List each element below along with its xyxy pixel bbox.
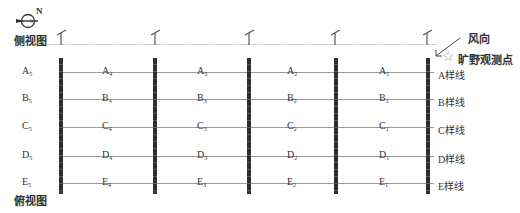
tree-icon <box>55 29 69 49</box>
transect-label-c: C样线 <box>438 122 465 137</box>
point-label: B4 <box>102 92 112 104</box>
point-label: E2 <box>287 176 296 188</box>
transect-label-d: D样线 <box>438 151 465 166</box>
point-label: A1 <box>379 65 389 77</box>
point-label: D2 <box>287 149 297 161</box>
point-label: A4 <box>102 65 112 77</box>
point-label: C3 <box>197 120 207 132</box>
shelterbelt-bar <box>59 58 63 194</box>
tree-icon <box>329 29 343 49</box>
tree-icon <box>149 29 163 49</box>
point-label: E4 <box>102 176 111 188</box>
shelterbelt-bar <box>247 58 251 194</box>
point-label: D4 <box>102 149 112 161</box>
point-label: C4 <box>102 120 112 132</box>
transect-label-b: B样线 <box>438 94 465 109</box>
side-view-horizon-line <box>48 44 436 45</box>
side-view-label: 侧视图 <box>14 32 47 48</box>
transect-label-e: E样线 <box>438 178 464 193</box>
point-label: B2 <box>287 92 297 104</box>
point-label: E3 <box>197 176 206 188</box>
point-label: D1 <box>379 149 389 161</box>
station-label: 旷野观测点 <box>458 51 513 67</box>
transect-label-a: A样线 <box>438 67 465 82</box>
point-label: D5 <box>22 149 32 161</box>
shelterbelt-bar <box>426 58 430 194</box>
point-label: A3 <box>197 65 207 77</box>
shelterbelt-bar <box>334 58 338 194</box>
point-label: C5 <box>22 120 32 132</box>
point-label: A2 <box>287 65 297 77</box>
point-label: E5 <box>22 176 31 188</box>
tree-icon <box>243 29 257 49</box>
point-label: D3 <box>197 149 207 161</box>
point-label: B3 <box>197 92 207 104</box>
point-label: A5 <box>22 65 32 77</box>
point-label: B1 <box>379 92 389 104</box>
top-view-label: 俯视图 <box>14 192 47 208</box>
north-label: N <box>36 6 43 16</box>
wind-direction-label: 风向 <box>468 30 490 46</box>
shelterbelt-bar <box>153 58 157 194</box>
point-label: B5 <box>22 92 32 104</box>
station-star-icon: ☆ <box>442 48 455 65</box>
point-label: C1 <box>379 120 389 132</box>
point-label: C2 <box>287 120 297 132</box>
point-label: E1 <box>379 176 388 188</box>
